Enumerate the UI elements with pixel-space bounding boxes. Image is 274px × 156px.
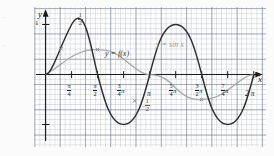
t3-suf: π [147,89,151,98]
figure-root: – – [0,0,274,156]
x-tick-label-pi: π [147,83,151,99]
x-tick-label-three-pi-over-2: 32π [195,80,203,97]
t1-num: π [93,83,97,89]
x-axis-label: x [258,75,262,84]
x-tick-label-pi-over-2: π2 [93,80,97,97]
t7-suf: 2 π [245,89,254,98]
curve-label-f-of-x: y = f(x) [105,50,129,58]
marker-cross-right [133,99,136,102]
margin-mark-top: – [2,14,5,19]
x-tick-label-pi-over-4: π4 [67,80,71,97]
t4-suf: π [173,87,177,95]
y-axis-label: y [38,10,42,19]
plot-svg [34,7,266,147]
curve-label-sin-x: y = sin x [156,41,184,49]
x-tick-label-two-pi: 2 π [245,83,254,99]
x-tick-label-seven-pi-over-4: 74π [221,80,229,97]
graph-paper: y x 1 –1 1 2 – 1 2 y = f(x) y = sin x π4… [34,7,266,147]
t2-suf: π [121,87,125,95]
x-tick-label-three-pi-over-4: 34π [117,80,125,97]
half-numerator: 1 [78,12,83,19]
margin-mark-mid: – [2,42,5,47]
value-label-half: 1 2 [78,9,83,27]
minus-half-denominator: 2 [145,105,150,113]
t0-num: π [67,83,71,89]
t1-den: 2 [93,90,97,97]
t0-den: 4 [67,90,71,97]
t5-suf: π [199,87,203,95]
t6-suf: π [225,87,229,95]
x-tick-label-five-pi-over-4: 54π [169,80,177,97]
half-denominator: 2 [78,19,83,27]
y-tick-label-1: 1 [35,20,39,27]
